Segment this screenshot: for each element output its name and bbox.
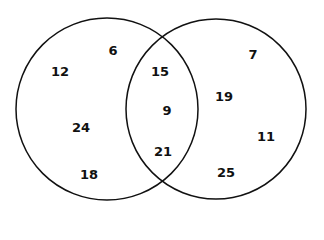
region-value-left-only: 12 <box>51 64 69 79</box>
region-value-right-only: 25 <box>217 165 235 180</box>
region-value-intersection: 15 <box>151 64 169 79</box>
region-value-left-only: 6 <box>108 43 117 58</box>
region-value-right-only: 7 <box>248 47 257 62</box>
region-value-right-only: 19 <box>215 89 233 104</box>
region-value-left-only: 18 <box>80 167 98 182</box>
region-value-intersection: 21 <box>154 144 172 159</box>
region-value-right-only: 11 <box>257 129 275 144</box>
region-value-left-only: 24 <box>72 120 90 135</box>
region-value-intersection: 9 <box>162 103 171 118</box>
